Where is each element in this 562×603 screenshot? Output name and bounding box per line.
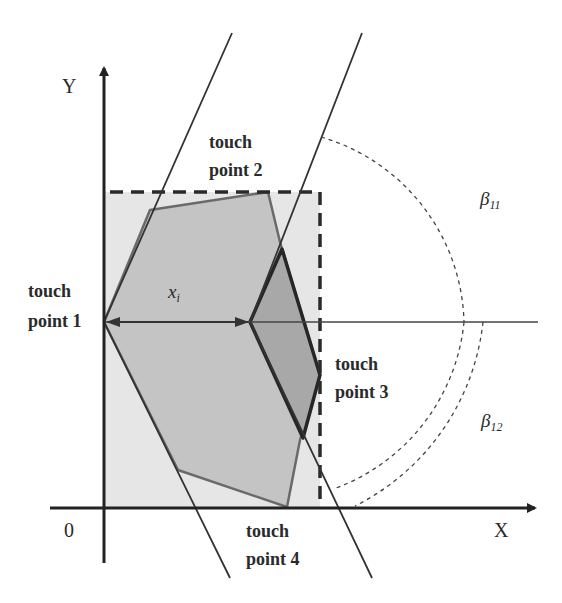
angle-arc-beta-12-outer [355,322,483,506]
touch-point-diagram: Y X 0 touch point 1 touch point 2 touch … [0,0,562,603]
angle-label-beta-11: β11 [479,188,501,212]
touch-point-1-label: touch point 1 [28,281,82,331]
x-axis-label: X [494,519,509,541]
angle-arc-beta-11 [321,137,464,322]
touch-point-3-label: touch point 3 [335,354,389,402]
angle-label-beta-12: β12 [480,410,502,434]
angle-arc-beta-12-inner [336,322,464,488]
touch-point-2-label: touch point 2 [209,132,263,180]
origin-label: 0 [64,519,74,541]
y-axis-label: Y [62,75,76,97]
touch-point-4-label: touch point 4 [246,521,300,569]
